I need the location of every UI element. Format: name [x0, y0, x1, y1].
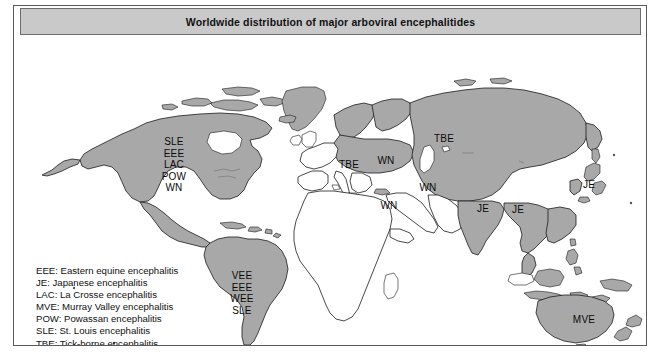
title-banner: Worldwide distribution of major arbovira…	[20, 8, 641, 35]
legend-item-tbe: TBE: Tick-borne encephalitis	[36, 338, 246, 345]
world-map: .land-shaded { fill:#a8a8a8; stroke:#1a1…	[14, 43, 646, 345]
page-title: Worldwide distribution of major arbovira…	[186, 16, 475, 28]
legend-item-pow: POW: Powassan encephalitis	[36, 313, 246, 325]
figure-root: Worldwide distribution of major arbovira…	[0, 0, 660, 357]
legend-item-lac: LAC: La Crosse encephalitis	[36, 289, 246, 301]
legend-item-mve: MVE: Murray Valley encephalitis	[36, 301, 246, 313]
legend: EEE: Eastern equine encephalitis JE: Jap…	[36, 265, 246, 345]
legend-item-je: JE: Japanese encephalitis	[36, 277, 246, 289]
legend-item-sle: SLE: St. Louis encephalitis	[36, 325, 246, 337]
legend-item-eee: EEE: Eastern equine encephalitis	[36, 265, 246, 277]
